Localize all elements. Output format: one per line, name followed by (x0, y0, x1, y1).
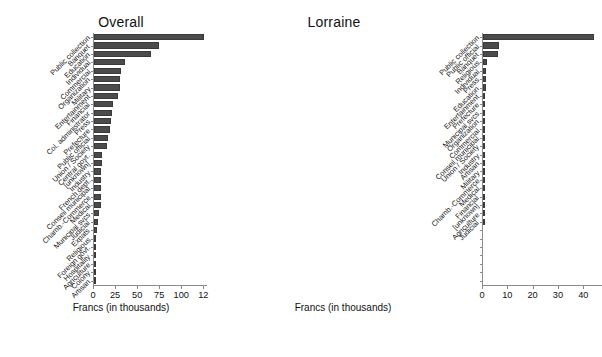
x-tick (583, 285, 584, 289)
y-tick (480, 146, 483, 147)
bar (483, 160, 485, 166)
y-tick (480, 113, 483, 114)
x-tick-label: 50 (132, 290, 142, 300)
y-tick (91, 230, 94, 231)
bar (94, 277, 96, 283)
bar (483, 194, 485, 200)
bar (483, 42, 499, 48)
bar (94, 261, 96, 267)
y-tick (91, 205, 94, 206)
y-tick (480, 104, 483, 105)
y-tick (91, 146, 94, 147)
panel-lorraine: Lorraine Public collectionPublic officia… (216, 0, 432, 357)
bar-row (94, 159, 207, 167)
y-tick (91, 121, 94, 122)
y-tick (480, 188, 483, 189)
bar (94, 194, 101, 200)
bar-row (94, 67, 207, 75)
bar-row (483, 268, 602, 276)
y-tick (91, 96, 94, 97)
y-tick (91, 37, 94, 38)
bar (483, 84, 486, 90)
bar-row (483, 142, 602, 150)
y-tick (480, 222, 483, 223)
bar (483, 202, 485, 208)
bar (94, 168, 101, 174)
y-tick (91, 104, 94, 105)
y-tick (480, 71, 483, 72)
bar (483, 177, 485, 183)
bar-row (94, 234, 207, 242)
bar (483, 152, 485, 158)
x-tick-label: 10 (502, 290, 512, 300)
y-tick (480, 46, 483, 47)
y-tick (480, 163, 483, 164)
bar (94, 110, 112, 116)
bar-row (94, 218, 207, 226)
bar-row (94, 41, 207, 49)
bar (94, 185, 101, 191)
x-tick-label: 25 (110, 290, 120, 300)
bar (94, 210, 99, 216)
y-tick (480, 205, 483, 206)
bar-row (483, 234, 602, 242)
bar-row (94, 125, 207, 133)
bar-row (483, 201, 602, 209)
bar-row (483, 276, 602, 284)
y-tick (480, 54, 483, 55)
bar-row (94, 83, 207, 91)
y-tick (480, 88, 483, 89)
bar-row (483, 33, 602, 41)
bar (94, 160, 102, 166)
bar-row (94, 209, 207, 217)
bar-row (483, 209, 602, 217)
bar (94, 135, 108, 141)
bar (94, 68, 121, 74)
bar (483, 51, 498, 57)
bar (94, 152, 102, 158)
y-tick (91, 272, 94, 273)
y-tick (91, 71, 94, 72)
bar (483, 219, 485, 225)
bar (94, 235, 96, 241)
x-tick (482, 285, 483, 289)
bar-row (483, 75, 602, 83)
bar-row (483, 125, 602, 133)
bar (94, 118, 111, 124)
bar-row (94, 92, 207, 100)
bar-row (94, 243, 207, 251)
bar (94, 59, 125, 65)
category-labels-overall: Public collectionBanquetEducationIndivid… (0, 33, 93, 285)
panel-title-lorraine: Lorraine (216, 14, 432, 30)
y-tick (91, 180, 94, 181)
x-axis-title-lorraine: Francs (in thousands) (216, 302, 432, 313)
y-tick (91, 213, 94, 214)
bar (483, 168, 485, 174)
y-tick (480, 79, 483, 80)
bar (94, 227, 97, 233)
bar (94, 252, 96, 258)
bar (483, 59, 487, 65)
y-tick (480, 138, 483, 139)
y-tick (91, 222, 94, 223)
bar-row (94, 150, 207, 158)
bar-row (94, 142, 207, 150)
bar (483, 101, 485, 107)
x-axis-title-overall: Francs (in thousands) (0, 302, 216, 313)
x-ticks-lorraine: 010203040 (482, 285, 602, 315)
y-tick (480, 37, 483, 38)
bar-row (483, 92, 602, 100)
bar (483, 110, 485, 116)
bar (94, 244, 96, 250)
bar-row (94, 100, 207, 108)
bar-row (483, 218, 602, 226)
x-tick (181, 285, 182, 289)
bar-row (94, 58, 207, 66)
y-tick (91, 247, 94, 248)
bars-overall (94, 33, 207, 285)
category-labels-lorraine: Public collectionPublic officialBanquetR… (389, 33, 482, 285)
y-tick (480, 281, 483, 282)
bar-row (483, 117, 602, 125)
bar-row (94, 201, 207, 209)
